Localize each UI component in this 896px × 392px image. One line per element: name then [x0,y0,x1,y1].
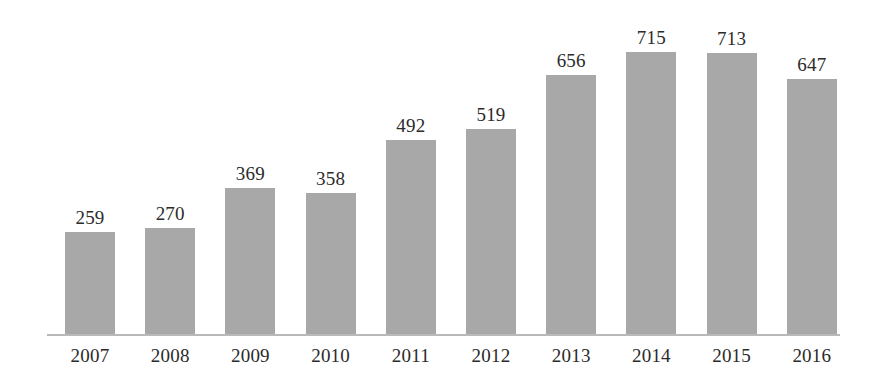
bar-group: 270 [145,228,195,334]
bar-group: 369 [225,188,275,334]
bar-value-label: 713 [707,29,757,48]
bar [626,52,676,334]
x-axis-tick-label: 2010 [306,346,356,365]
bar-group: 492 [386,140,436,334]
bar-value-label: 358 [306,169,356,188]
bar-value-label: 715 [626,28,676,47]
bar-group: 715 [626,52,676,334]
bar-group: 519 [466,129,516,334]
x-axis-tick-label: 2007 [65,346,115,365]
bar-group: 259 [65,232,115,334]
bar [225,188,275,334]
bar [145,228,195,334]
x-axis-tick-label: 2009 [225,346,275,365]
bar-value-label: 492 [386,116,436,135]
bar [707,53,757,334]
x-axis-tick-label: 2011 [386,346,436,365]
bar-value-label: 519 [466,105,516,124]
x-axis-tick-label: 2008 [145,346,195,365]
x-axis-tick-label: 2013 [546,346,596,365]
bar-value-label: 259 [65,208,115,227]
bar-value-label: 369 [225,164,275,183]
x-axis-tick-label: 2016 [787,346,837,365]
bar-group: 358 [306,193,356,334]
bar-chart: 2592007270200836920093582010492201151920… [0,0,896,392]
x-axis-tick-label: 2014 [626,346,676,365]
bar [466,129,516,334]
x-axis-tick-label: 2012 [466,346,516,365]
plot-area: 2592007270200836920093582010492201151920… [0,0,896,392]
bar-value-label: 656 [546,51,596,70]
bar-group: 647 [787,79,837,334]
bar [65,232,115,334]
x-axis-tick-label: 2015 [707,346,757,365]
bar [386,140,436,334]
bar-group: 656 [546,75,596,334]
bar-value-label: 647 [787,55,837,74]
bar [306,193,356,334]
bar-value-label: 270 [145,204,195,223]
bar [546,75,596,334]
bar [787,79,837,334]
x-axis-line [47,334,840,336]
bar-group: 713 [707,53,757,334]
